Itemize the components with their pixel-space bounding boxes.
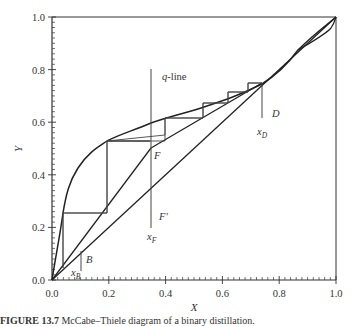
B-label: B bbox=[86, 254, 93, 265]
xB-label: xB bbox=[70, 267, 81, 281]
q-line-label: q-line bbox=[162, 71, 187, 82]
xF-label: xF bbox=[146, 231, 157, 245]
x-tick-label: 0.0 bbox=[45, 288, 58, 299]
y-tick-label: 0.8 bbox=[32, 65, 45, 76]
y-tick-label: 0.2 bbox=[32, 222, 45, 233]
x-tick-label: 0.8 bbox=[273, 288, 286, 299]
x-axis-title: X bbox=[190, 301, 199, 313]
y-tick-label: 0.6 bbox=[32, 117, 45, 128]
x-tick-label: 0.2 bbox=[102, 288, 115, 299]
mccabe-thiele-chart: 0.0 0.2 0.4 0.6 0.8 1.0 0.0 0.2 0.4 0.6 … bbox=[0, 0, 356, 327]
y-tick-label: 0.4 bbox=[32, 170, 46, 181]
y-tick-label: 1.0 bbox=[32, 12, 45, 23]
y-tick-labels: 0.0 0.2 0.4 0.6 0.8 1.0 bbox=[32, 12, 46, 286]
F-label: F bbox=[153, 150, 161, 161]
xF-label-sub: F bbox=[151, 236, 157, 245]
F-prime-label: F′ bbox=[158, 211, 168, 222]
x-tick-label: 1.0 bbox=[329, 288, 342, 299]
y-tick-label: 0.0 bbox=[32, 275, 45, 286]
figure-number: FIGURE 13.7 bbox=[0, 315, 59, 326]
xB-label-sub: B bbox=[76, 272, 81, 281]
y-axis-title: Y bbox=[12, 144, 24, 152]
xD-label: xD bbox=[256, 126, 268, 140]
xD-label-sub: D bbox=[261, 131, 268, 140]
x-tick-labels: 0.0 0.2 0.4 0.6 0.8 1.0 bbox=[45, 288, 342, 299]
stage-steps bbox=[63, 83, 262, 268]
rectifying-operating-line bbox=[151, 83, 262, 148]
x-tick-label: 0.6 bbox=[216, 288, 229, 299]
stage-staircase bbox=[63, 83, 262, 268]
D-label: D bbox=[271, 108, 280, 119]
figure-caption-text: McCabe–Thiele diagram of a binary distil… bbox=[61, 315, 254, 326]
x-tick-label: 0.4 bbox=[159, 288, 173, 299]
q-line-label-rest: -line bbox=[167, 71, 187, 82]
stripping-operating-line bbox=[52, 148, 151, 280]
figure-caption: FIGURE 13.7 McCabe–Thiele diagram of a b… bbox=[0, 315, 356, 327]
